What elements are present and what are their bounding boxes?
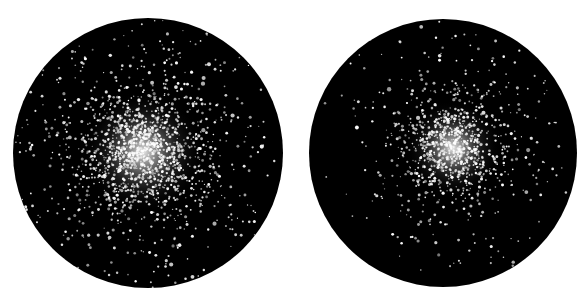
star-field-right [309,19,577,287]
eyepiece-view-left: Globular cluster eyepiece view (left) [13,18,283,288]
star-field-left [13,18,283,288]
eyepiece-view-right: Globular cluster eyepiece view (right) [309,19,577,287]
